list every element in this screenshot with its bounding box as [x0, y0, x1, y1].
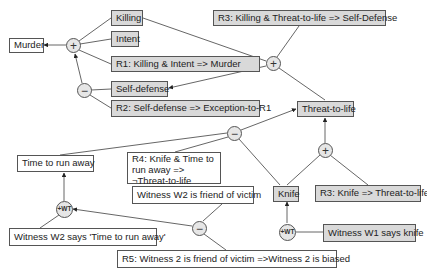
node-time-to-run-away: Time to run away [17, 155, 94, 172]
node-rule-r2: R2: Self-defense => Exception-to-R1 [111, 100, 260, 117]
node-rule-r1: R1: Killing & Intent => Murder [111, 56, 260, 72]
minus-operator-threat: − [227, 126, 242, 141]
node-rule-r3-knife: R3: Knife => Threat-to-life [315, 185, 421, 202]
node-threat-to-life: Threat-to-life [297, 101, 354, 117]
node-rule-r4: R4: Knife & Time to run away => ¬Threat-… [127, 152, 221, 184]
node-witness-w1-says: Witness W1 says knife [323, 224, 416, 242]
node-intent: Intent [111, 31, 139, 47]
weighted-testimony-operator-knife: +WT [279, 224, 296, 241]
node-killing: Killing [111, 10, 143, 26]
minus-operator-bias: − [192, 221, 207, 236]
minus-operator-self-defense: − [77, 83, 92, 98]
node-murder: Murder [9, 38, 44, 53]
node-rule-r3-self-defense: R3: Killing & Threat-to-life => Self-Def… [213, 10, 386, 26]
node-knife: Knife [273, 186, 299, 202]
plus-operator-self-defense: + [266, 56, 281, 71]
node-witness-w2-friend: Witness W2 is friend of victim [132, 186, 254, 204]
plus-operator-murder: + [66, 38, 81, 53]
node-rule-r5: R5: Witness 2 is friend of victim =>Witn… [117, 250, 337, 268]
node-witness-w2-says: Witness W2 says 'Time to run away' [9, 228, 157, 246]
plus-operator-threat: + [318, 143, 333, 158]
node-self-defense: Self-defense [111, 81, 168, 97]
weighted-testimony-operator-time: +WT [56, 201, 73, 218]
